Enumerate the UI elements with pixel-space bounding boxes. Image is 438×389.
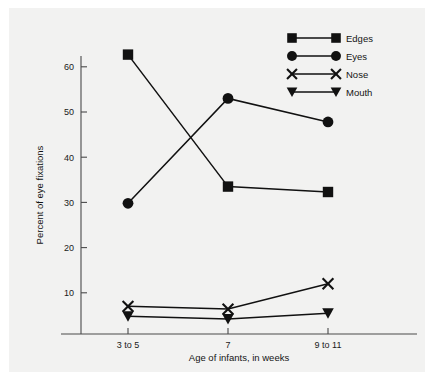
y-axis-title: Percent of eye fixations (34, 145, 45, 244)
marker-circle (287, 51, 297, 61)
legend-item-nose[interactable]: Nose (287, 69, 368, 80)
legend-label: Mouth (346, 87, 372, 98)
marker-square (287, 33, 297, 43)
marker-circle (323, 117, 334, 128)
marker-square (323, 187, 333, 197)
axes (61, 56, 417, 334)
x-tick-label: 3 to 5 (117, 340, 140, 350)
marker-circle (123, 198, 134, 209)
series-group (122, 49, 334, 324)
x-axis-ticks: 3 to 579 to 11 (117, 328, 342, 350)
legend-item-eyes[interactable]: Eyes (287, 51, 367, 62)
figure-root: 102030405060 3 to 579 to 11 Age of infan… (0, 0, 438, 389)
legend: EdgesEyesNoseMouth (287, 33, 374, 98)
legend-label: Edges (346, 33, 373, 44)
line-chart: 102030405060 3 to 579 to 11 Age of infan… (9, 8, 425, 372)
marker-square (223, 181, 233, 191)
legend-item-mouth[interactable]: Mouth (287, 87, 373, 98)
y-tick-label: 40 (64, 153, 74, 163)
y-tick-label: 60 (64, 62, 74, 72)
x-tick-label: 9 to 11 (315, 340, 342, 350)
chart-panel: 102030405060 3 to 579 to 11 Age of infan… (9, 8, 425, 372)
legend-label: Nose (346, 69, 368, 80)
series-nose (123, 278, 334, 314)
marker-circle (331, 51, 341, 61)
y-tick-label: 20 (64, 243, 74, 253)
y-axis-ticks: 102030405060 (64, 62, 87, 298)
y-tick-label: 50 (64, 107, 74, 117)
marker-square (123, 49, 133, 59)
series-line-nose (128, 284, 328, 309)
x-tick-label: 7 (225, 340, 230, 350)
legend-label: Eyes (346, 51, 367, 62)
marker-square (331, 33, 341, 43)
legend-item-edges[interactable]: Edges (287, 33, 373, 44)
marker-circle (223, 93, 234, 104)
series-mouth (122, 308, 334, 324)
y-tick-label: 10 (64, 288, 74, 298)
y-tick-label: 30 (64, 198, 74, 208)
x-axis-title: Age of infants, in weeks (189, 352, 290, 363)
